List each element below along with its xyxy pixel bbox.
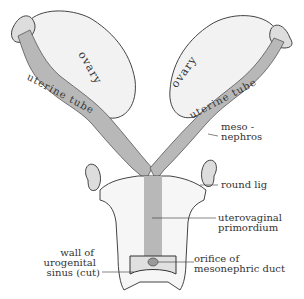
anatomy-diagram bbox=[0, 0, 304, 299]
uterovaginal-label-2: primordium bbox=[218, 223, 278, 233]
round-lig-label: round lig bbox=[221, 180, 267, 190]
wall-label-3: sinus (cut) bbox=[47, 268, 100, 278]
mesonephros-label-2: nephros bbox=[221, 132, 262, 142]
orifice-label-2: mesonephric duct bbox=[194, 264, 285, 274]
